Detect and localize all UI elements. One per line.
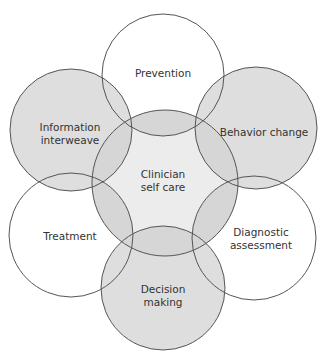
label-decision-making-line1: Decision	[141, 283, 186, 295]
label-prevention: Prevention	[135, 67, 191, 79]
label-clinician-self-care-line2: self care	[141, 181, 186, 193]
label-information-interweave-line1: Information	[40, 121, 101, 133]
label-behavior-change: Behavior change	[220, 126, 309, 138]
label-diagnostic-assessment-line1: Diagnostic	[233, 226, 289, 238]
label-decision-making-line2: making	[144, 296, 183, 308]
clinician-self-care-diagram: Prevention Information interweave Behavi…	[0, 0, 325, 356]
label-clinician-self-care-line1: Clinician	[141, 168, 186, 180]
label-information-interweave-line2: interweave	[41, 134, 100, 146]
label-diagnostic-assessment-line2: assessment	[230, 239, 292, 251]
label-treatment: Treatment	[42, 230, 96, 242]
